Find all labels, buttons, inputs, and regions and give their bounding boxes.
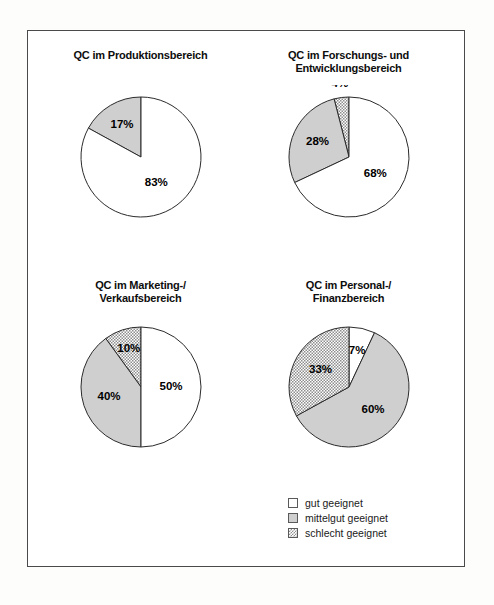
pie-chart-forschung-entwicklung: QC im Forschungs- undEntwicklungsbereich… xyxy=(246,49,451,229)
pie-svg: 4%28%68% xyxy=(277,85,421,229)
chart-title-0: QC im Produktionsbereich xyxy=(38,49,243,62)
pie-slice-label: 17% xyxy=(110,118,133,130)
pie-slice-label: 4% xyxy=(331,85,348,89)
pie-slice-label: 28% xyxy=(305,135,328,147)
chart-title-line: QC im Produktionsbereich xyxy=(74,49,208,61)
chart-title-line: Entwicklungsbereich xyxy=(295,62,401,74)
chart-title-1: QC im Forschungs- undEntwicklungsbereich xyxy=(246,49,451,75)
chart-title-line: Finanzbereich xyxy=(313,292,384,304)
pie-slice-label: 7% xyxy=(348,344,365,356)
pie-svg: 17%83% xyxy=(69,85,213,229)
chart-title-3: QC im Personal-/Finanzbereich xyxy=(246,279,451,305)
page-frame: QC im Produktionsbereich 17%83% QC im Fo… xyxy=(27,30,465,567)
pie-canvas-3: 7%60%33% xyxy=(277,315,421,459)
pie-chart-produktionsbereich: QC im Produktionsbereich 17%83% xyxy=(38,49,243,229)
chart-title-line: QC im Forschungs- und xyxy=(288,49,409,61)
pie-slice-label: 50% xyxy=(159,380,182,392)
legend: gut geeignetmittelgut geeignetschlecht g… xyxy=(288,496,388,541)
pie-slice-label: 83% xyxy=(144,176,167,188)
legend-swatch-schlecht xyxy=(288,528,298,538)
pie-slice-label: 33% xyxy=(309,363,332,375)
pie-svg: 7%60%33% xyxy=(277,315,421,459)
chart-title-line: Verkaufsbereich xyxy=(100,292,182,304)
chart-title-line: QC im Personal-/ xyxy=(306,279,391,291)
legend-label-schlecht: schlecht geeignet xyxy=(305,527,387,539)
pie-canvas-2: 10%40%50% xyxy=(69,315,213,459)
pie-slice-label: 68% xyxy=(363,167,386,179)
legend-item-mittelgut[interactable]: mittelgut geeignet xyxy=(288,511,388,525)
pie-slice-label: 10% xyxy=(117,342,140,354)
legend-item-gut[interactable]: gut geeignet xyxy=(288,496,388,510)
chart-title-2: QC im Marketing-/Verkaufsbereich xyxy=(38,279,243,305)
pie-svg: 10%40%50% xyxy=(69,315,213,459)
chart-title-line: QC im Marketing-/ xyxy=(95,279,186,291)
legend-item-schlecht[interactable]: schlecht geeignet xyxy=(288,526,388,540)
pie-slice-label: 60% xyxy=(361,403,384,415)
legend-label-gut: gut geeignet xyxy=(305,497,363,509)
pie-canvas-1: 4%28%68% xyxy=(277,85,421,229)
legend-swatch-gut xyxy=(288,498,298,508)
legend-label-mittelgut: mittelgut geeignet xyxy=(305,512,388,524)
pie-chart-marketing-verkauf: QC im Marketing-/Verkaufsbereich 10%40%5… xyxy=(38,279,243,459)
pie-chart-personal-finanz: QC im Personal-/Finanzbereich 7%60%33% xyxy=(246,279,451,459)
pie-canvas-0: 17%83% xyxy=(69,85,213,229)
pie-slice-label: 40% xyxy=(97,390,120,402)
legend-swatch-mittelgut xyxy=(288,513,298,523)
